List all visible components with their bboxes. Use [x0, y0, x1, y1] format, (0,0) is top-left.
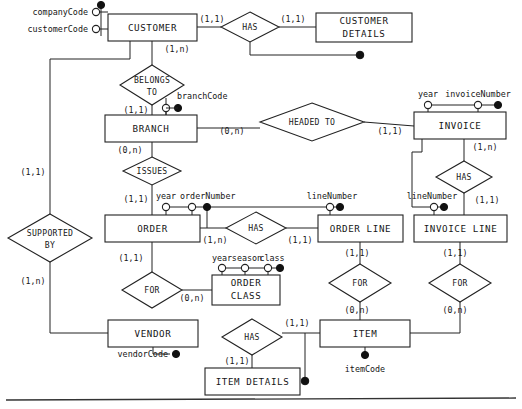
attribute-order-class-class[interactable]: class — [259, 253, 284, 272]
attribute-circle-open-icon — [92, 25, 99, 32]
relationship-supported-by[interactable]: SUPPORTED BY — [8, 214, 92, 262]
attribute-label: companyCode — [33, 7, 88, 17]
identifier-dot-customer-details-icon — [356, 51, 364, 59]
attribute-circle-open-icon — [474, 101, 481, 108]
relationship-label: HEADED TO — [289, 117, 336, 127]
attribute-order-line-lineNumber[interactable]: lineNumber — [307, 191, 357, 211]
attribute-vendorCode[interactable]: vendorCode — [118, 349, 180, 359]
attribute-itemCode[interactable]: itemCode — [345, 351, 385, 373]
cardinality-label: (1,1) — [200, 14, 225, 24]
entity-item[interactable]: ITEM — [320, 320, 410, 347]
cardinality-label: (0,n) — [180, 293, 205, 303]
attribute-label: season — [232, 253, 262, 263]
cardinality-label: (0,n) — [220, 126, 245, 136]
attribute-label: branchCode — [177, 91, 227, 101]
relationship-diamond[interactable] — [8, 214, 92, 262]
attribute-orderNumber[interactable]: orderNumber — [180, 191, 235, 211]
attribute-key-dot-icon — [336, 203, 343, 210]
attribute-order-class-year[interactable]: year — [212, 253, 232, 272]
relationship-label: ISSUES — [136, 166, 167, 176]
attribute-key-dot-icon — [276, 264, 283, 271]
relationship-for-order-class[interactable]: FOR — [122, 272, 182, 308]
relationship-label: HAS — [248, 223, 264, 233]
relationship-belongs-to[interactable]: BELONGS TO — [120, 65, 184, 105]
attribute-label: year — [156, 191, 176, 201]
entity-label: VENDOR — [135, 328, 172, 339]
entity-label-line2: DETAILS — [343, 28, 386, 39]
relationship-for-invoice-line-item[interactable]: FOR — [429, 264, 491, 302]
attribute-label: customerCode — [27, 24, 88, 34]
entity-label: INVOICE LINE — [424, 223, 498, 234]
entity-customer-details[interactable]: CUSTOMER DETAILS — [316, 13, 412, 42]
entity-order-line[interactable]: ORDER LINE — [318, 215, 403, 242]
entity-label: ITEM DETAILS — [216, 376, 290, 387]
relationship-has-customer-details[interactable]: HAS — [221, 12, 279, 42]
entity-invoice[interactable]: INVOICE — [414, 112, 506, 139]
relationship-label-line2: TO — [147, 87, 157, 97]
attribute-key-dot-icon — [361, 351, 368, 358]
entity-branch[interactable]: BRANCH — [105, 115, 197, 142]
entity-label: INVOICE — [439, 120, 482, 131]
attribute-circle-open-icon — [218, 264, 225, 271]
relationship-has-item-details[interactable]: HAS — [222, 319, 282, 355]
cardinality-label: (1,n) — [203, 235, 228, 245]
attribute-circle-open-icon — [424, 101, 431, 108]
attribute-branchCode[interactable]: branchCode — [162, 91, 227, 112]
cardinality-label: (1,1) — [119, 253, 144, 263]
relationship-label: HAS — [456, 172, 472, 182]
relationship-label: HAS — [244, 332, 260, 342]
entity-label-line1: ORDER — [231, 277, 262, 288]
attribute-circle-open-icon — [92, 8, 99, 15]
attribute-invoice-year[interactable]: year — [418, 89, 438, 109]
relationship-for-order-line-item[interactable]: FOR — [329, 264, 391, 302]
relationship-diamond[interactable] — [120, 65, 184, 105]
cardinality-label: (1,n) — [21, 276, 46, 286]
relationship-label-line2: BY — [45, 240, 55, 250]
attribute-label: itemCode — [345, 364, 385, 374]
relationship-issues[interactable]: ISSUES — [123, 157, 181, 185]
attribute-companyCode[interactable]: companyCode — [33, 1, 105, 16]
attribute-order-class-season[interactable]: season — [232, 253, 262, 272]
entity-customer[interactable]: CUSTOMER — [108, 14, 197, 41]
er-diagram-canvas: CUSTOMER CUSTOMER DETAILS BRANCH INVOICE… — [0, 0, 522, 409]
attribute-invoice-line-lineNumber[interactable]: lineNumber — [407, 191, 457, 211]
entity-vendor[interactable]: VENDOR — [108, 320, 198, 347]
relationship-label: FOR — [352, 278, 368, 288]
identifier-dot-item-details-icon — [301, 377, 309, 385]
entity-label: ITEM — [353, 328, 378, 339]
attribute-key-dot-icon — [97, 1, 104, 8]
entity-label-line2: CLASS — [231, 290, 262, 301]
entity-invoice-line[interactable]: INVOICE LINE — [414, 215, 507, 242]
attribute-customerCode[interactable]: customerCode — [27, 24, 99, 34]
cardinality-label: (1,1) — [21, 167, 46, 177]
relationship-label: FOR — [144, 285, 160, 295]
cardinality-label: (1,1) — [124, 105, 149, 115]
attribute-order-year[interactable]: year — [156, 191, 176, 211]
cardinality-label: (0,n) — [118, 145, 143, 155]
attribute-label: orderNumber — [180, 191, 235, 201]
entity-item-details[interactable]: ITEM DETAILS — [205, 368, 300, 395]
attribute-circle-open-icon — [188, 203, 195, 210]
cardinality-label: (1,1) — [281, 14, 306, 24]
cardinality-label: (1,1) — [225, 356, 250, 366]
entity-label: ORDER LINE — [330, 223, 391, 234]
attribute-label: year — [212, 253, 232, 263]
relationship-has-invoice-line[interactable]: HAS — [436, 161, 492, 193]
attribute-key-dot-icon — [203, 203, 210, 210]
attribute-invoiceNumber[interactable]: invoiceNumber — [445, 89, 511, 109]
cardinality-label: (1,1) — [378, 126, 403, 136]
attribute-circle-open-icon — [264, 264, 271, 271]
cardinality-label: (1,n) — [473, 142, 498, 152]
entity-label: ORDER — [137, 223, 168, 234]
entity-label-line1: CUSTOMER — [339, 15, 388, 26]
relationship-has-order-line[interactable]: HAS — [226, 212, 286, 244]
entity-label: BRANCH — [133, 123, 170, 134]
attribute-label: vendorCode — [118, 349, 168, 359]
attribute-label: invoiceNumber — [445, 89, 511, 99]
attribute-label: lineNumber — [307, 191, 357, 201]
er-diagram-svg: CUSTOMER CUSTOMER DETAILS BRANCH INVOICE… — [0, 0, 522, 409]
cardinality-label: (0,n) — [345, 305, 370, 315]
entity-order-class[interactable]: ORDER CLASS — [212, 275, 280, 305]
entity-order[interactable]: ORDER — [105, 215, 200, 242]
relationship-headed-to[interactable]: HEADED TO — [260, 103, 364, 141]
